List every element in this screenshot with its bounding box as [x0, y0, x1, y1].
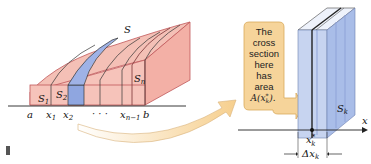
solid-s	[8, 22, 190, 106]
edge-mark	[6, 146, 10, 155]
volume-by-slicing-diagram: S S1 S2 Sn a x1 x2 · · · xn−1 b The cros…	[0, 0, 371, 164]
svg-text:cross: cross	[253, 37, 276, 48]
svg-text:has: has	[256, 70, 272, 81]
axis-label-b: b	[143, 109, 149, 120]
width-label-delta-xk: Δxk	[301, 148, 319, 161]
svg-text:The: The	[256, 26, 272, 37]
axis-arrow-icon	[362, 127, 368, 133]
axis-label-x: x	[362, 115, 368, 126]
axis-label-x1: x1	[46, 109, 56, 122]
svg-text:A(x*k).: A(x*k).	[249, 92, 275, 104]
slab-sk	[298, 8, 355, 138]
axis-label-dots: · · ·	[92, 108, 108, 119]
svg-text:section: section	[249, 48, 279, 59]
svg-text:here: here	[254, 59, 273, 70]
solid-label: S	[124, 24, 131, 35]
axis-label-x2: x2	[63, 109, 74, 122]
svg-text:area: area	[254, 81, 274, 92]
axis-label-a: a	[27, 109, 33, 120]
sample-point	[310, 128, 314, 132]
axis-label-xn-1: xn−1	[120, 109, 140, 122]
point-label-xk-star: x*k	[306, 133, 316, 148]
